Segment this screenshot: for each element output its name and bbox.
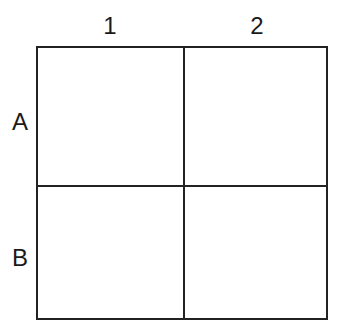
column-label-2: 2 — [242, 14, 272, 38]
cell-a1 — [38, 48, 183, 185]
horizontal-divider — [38, 185, 326, 187]
cell-b1 — [38, 187, 183, 318]
grid-2x2 — [36, 46, 328, 320]
row-label-b: B — [8, 246, 32, 270]
cell-b2 — [185, 187, 326, 318]
column-label-1: 1 — [95, 14, 125, 38]
cell-a2 — [185, 48, 326, 185]
row-label-a: A — [8, 110, 32, 134]
vertical-divider — [183, 48, 185, 318]
